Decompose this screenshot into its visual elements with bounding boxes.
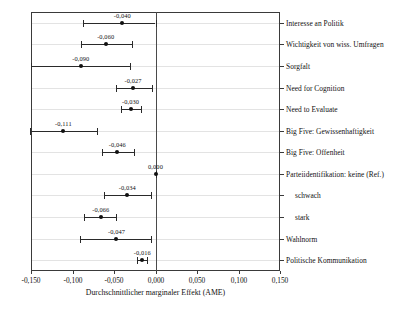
error-bar-cap-high [147, 257, 148, 264]
y-axis-tick [280, 152, 284, 153]
y-axis-category-label: Need for Cognition [286, 84, 344, 93]
x-axis-tick [73, 271, 74, 274]
zero-reference-line [156, 12, 157, 271]
y-axis-tick [280, 23, 284, 24]
estimate-point [99, 215, 103, 219]
y-axis-category-label: Wahlnorm [286, 235, 317, 244]
error-bar-cap-low [116, 85, 117, 92]
error-bar-cap-high [151, 236, 152, 243]
x-axis-title: Durchschnittlicher marginaler Effekt (AM… [86, 288, 225, 297]
point-value-label: 0,000 [148, 163, 163, 170]
x-axis-tick-label: 0,000 [148, 276, 165, 285]
point-value-label: -0,047 [108, 228, 125, 235]
error-bar-cap-high [130, 63, 131, 70]
y-axis-tick [280, 174, 284, 175]
point-value-label: -0,046 [109, 141, 126, 148]
y-axis-category-label: Interesse an Politik [286, 19, 344, 28]
x-axis-tick-label: 0,100 [231, 276, 248, 285]
x-axis-tick-label: -0,150 [21, 276, 40, 285]
y-axis-category-label: schwach [286, 191, 321, 200]
y-axis-category-label: Parteiidentifikation: keine (Ref.) [286, 170, 384, 179]
error-bar-cap-low [31, 63, 32, 70]
point-value-label: -0,034 [119, 184, 136, 191]
error-bar-cap-low [121, 106, 122, 113]
point-value-label: -0,111 [55, 120, 72, 127]
y-axis-category-label: Big Five: Gewissenhaftigkeit [286, 127, 374, 136]
error-bar-cap-high [134, 149, 135, 156]
y-axis-category-label: stark [286, 213, 310, 222]
error-bar-cap-high [97, 128, 98, 135]
y-axis-category-label: Politische Kommunikation [286, 256, 367, 265]
x-axis-tick-label: 0,150 [272, 276, 289, 285]
error-bar-cap-low [81, 41, 82, 48]
y-axis-tick [280, 260, 284, 261]
x-axis-tick [156, 271, 157, 274]
y-axis-category-label: Wichtigkeit von wiss. Umfragen [286, 40, 384, 49]
error-bar-cap-low [104, 192, 105, 199]
y-axis-tick [280, 66, 284, 67]
error-bar-cap-low [102, 149, 103, 156]
y-axis-tick [280, 131, 284, 132]
x-axis-tick [114, 271, 115, 274]
x-axis-tick [31, 271, 32, 274]
x-axis-tick-label: -0,100 [63, 276, 82, 285]
x-axis-tick [197, 271, 198, 274]
error-bar-cap-low [80, 236, 81, 243]
error-bar-cap-high [132, 41, 133, 48]
y-axis-tick [280, 44, 284, 45]
estimate-point [129, 107, 133, 111]
y-axis-tick [280, 217, 284, 218]
x-axis-tick-label: -0,050 [104, 276, 123, 285]
point-value-label: -0,066 [92, 206, 109, 213]
error-bar-cap-low [30, 128, 31, 135]
point-value-label: -0,030 [122, 98, 139, 105]
error-bar-cap-low [84, 214, 85, 221]
x-axis-tick-label: 0,050 [189, 276, 206, 285]
y-axis-category-label: Need to Evaluate [286, 105, 338, 114]
point-value-label: -0,016 [134, 249, 151, 256]
y-axis-category-label: Sorgfalt [286, 62, 310, 71]
estimate-point [154, 172, 158, 176]
x-axis-tick [280, 271, 281, 274]
estimate-point [79, 64, 83, 68]
y-axis-category-label: Big Five: Offenheit [286, 148, 345, 157]
point-value-label: -0,090 [72, 55, 89, 62]
y-axis-tick [280, 88, 284, 89]
x-axis-tick [239, 271, 240, 274]
y-axis-tick [280, 195, 284, 196]
y-axis-tick [280, 239, 284, 240]
error-bar-cap-high [156, 20, 157, 27]
error-bar-cap-high [151, 192, 152, 199]
estimate-point [104, 42, 108, 46]
point-value-label: -0,060 [97, 33, 114, 40]
coefficient-plot: -0,150-0,100-0,0500,0000,0500,1000,150Du… [0, 0, 420, 314]
error-bar-cap-high [116, 214, 117, 221]
error-bar-cap-high [152, 85, 153, 92]
y-axis-tick [280, 109, 284, 110]
error-bar-cap-low [83, 20, 84, 27]
point-value-label: -0,027 [125, 77, 142, 84]
point-value-label: -0,040 [114, 12, 131, 19]
error-bar-cap-high [141, 106, 142, 113]
error-bar-cap-low [137, 257, 138, 264]
